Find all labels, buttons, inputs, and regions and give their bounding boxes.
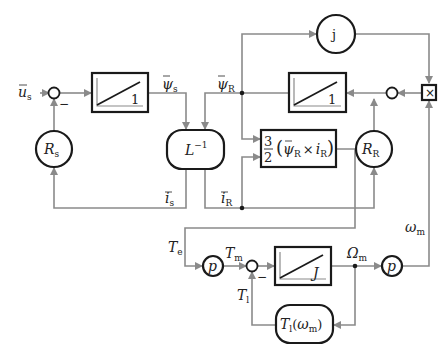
integrator-mech-block: J [275, 247, 331, 285]
signal-psi-r: ψR [217, 76, 235, 94]
inverse-inductance-label: L [184, 142, 194, 158]
integrator-stator-gain: 1 [131, 92, 139, 107]
sum-junction-mech [247, 261, 258, 272]
inverse-inductance-block: L−1 [167, 130, 224, 169]
torque-frac-den: 2 [264, 150, 272, 165]
signal-tm: Tm [225, 245, 243, 263]
signal-omega-m-mech: Ωm [346, 245, 368, 263]
load-torque-block: Tl(ωm) [276, 305, 333, 343]
minus-sign-stator: − [59, 97, 69, 111]
minus-sign-mech: − [257, 270, 267, 284]
stator-resistance-sub: s [55, 149, 60, 159]
rotor-resistance-sub: R [373, 149, 380, 159]
multiplier-icon: × [425, 86, 435, 100]
integrator-rotor-block: 1 [289, 73, 346, 112]
stator-resistance-label: R [43, 141, 55, 157]
multiplier-block: × [422, 85, 436, 100]
sum-junction-rotor [387, 88, 398, 99]
rotor-resistance-block: RR [356, 131, 392, 167]
inverse-inductance-sup: −1 [194, 140, 207, 150]
block-diagram: − − 1 1 J L−1 Rs RR [0, 0, 448, 357]
signal-us: us [18, 84, 32, 102]
sum-junction-stator [49, 88, 60, 99]
signal-is: is [165, 190, 174, 208]
torque-frac-num: 3 [264, 134, 272, 149]
junction-omega-m [353, 264, 358, 269]
signal-te: Te [168, 239, 183, 257]
signal-omega-m: ωm [405, 219, 425, 237]
signal-tl: Tl [237, 287, 249, 305]
junction-psi-r [240, 91, 245, 96]
integrator-rotor-gain: 1 [328, 92, 336, 107]
rotor-resistance-label: R [361, 141, 373, 157]
imaginary-unit-block: j [317, 15, 355, 53]
signal-psi-s: ψs [162, 76, 178, 94]
pole-pairs-block-1: p [203, 256, 223, 276]
signal-ir: iR [221, 190, 232, 208]
integrator-stator-block: 1 [92, 73, 148, 112]
pole-pairs-label-2: p [387, 258, 396, 274]
pole-pairs-label-1: p [208, 258, 217, 274]
stator-resistance-block: Rs [36, 131, 72, 167]
pole-pairs-block-2: p [382, 256, 402, 276]
torque-block: 3 2 (ψR×iR) [261, 130, 336, 167]
junction-i-r [240, 206, 245, 211]
